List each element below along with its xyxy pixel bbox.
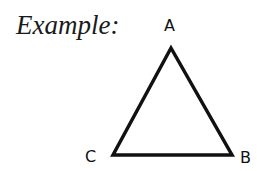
vertex-label-a: A	[164, 18, 175, 34]
vertex-label-c: C	[85, 149, 96, 165]
triangle-abc	[113, 48, 232, 155]
vertex-label-b: B	[240, 150, 251, 166]
triangle-diagram	[0, 0, 257, 171]
